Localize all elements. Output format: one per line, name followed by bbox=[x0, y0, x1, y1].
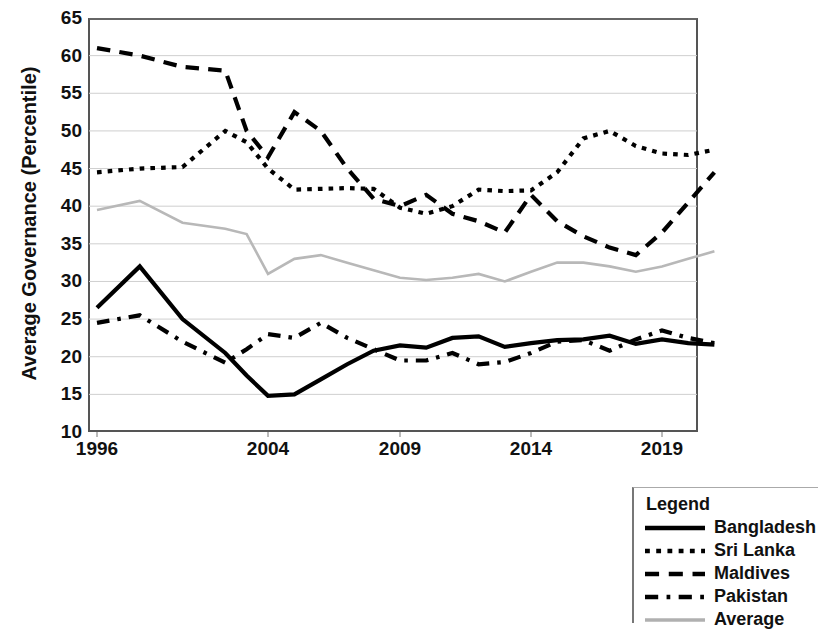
x-tick-label: 2009 bbox=[355, 439, 445, 458]
legend-swatch-maldives-icon bbox=[644, 567, 706, 581]
y-axis-tick-labels: 656055504540353025201510 bbox=[26, 0, 82, 623]
legend-item[interactable]: Sri Lanka bbox=[644, 540, 818, 563]
y-tick-label: 35 bbox=[30, 234, 82, 253]
legend-label: Bangladesh bbox=[714, 518, 816, 538]
x-tick-label: 1996 bbox=[52, 439, 142, 458]
y-tick-label: 20 bbox=[30, 347, 82, 366]
x-tick-label: 2014 bbox=[486, 439, 576, 458]
legend-title: Legend bbox=[646, 494, 818, 515]
y-tick-label: 60 bbox=[30, 46, 82, 65]
legend-item[interactable]: Pakistan bbox=[644, 586, 818, 609]
y-tick-label: 40 bbox=[30, 196, 82, 215]
legend-item[interactable]: Maldives bbox=[644, 563, 818, 586]
chart-legend: Legend BangladeshSri LankaMaldivesPakist… bbox=[632, 487, 818, 623]
legend-item[interactable]: Bangladesh bbox=[644, 517, 818, 540]
legend-label: Pakistan bbox=[714, 587, 788, 607]
y-tick-label: 15 bbox=[30, 384, 82, 403]
legend-item[interactable]: Average bbox=[644, 609, 818, 632]
legend-label: Maldives bbox=[714, 564, 790, 584]
x-tick-label: 2004 bbox=[223, 439, 313, 458]
y-tick-label: 25 bbox=[30, 309, 82, 328]
y-tick-label: 50 bbox=[30, 121, 82, 140]
legend-swatch-bangladesh-icon bbox=[644, 521, 706, 535]
y-tick-label: 30 bbox=[30, 271, 82, 290]
x-tick-label: 2019 bbox=[617, 439, 707, 458]
plot-area bbox=[88, 18, 698, 432]
y-tick-label: 65 bbox=[30, 8, 82, 27]
legend-label: Sri Lanka bbox=[714, 541, 795, 561]
legend-items: BangladeshSri LankaMaldivesPakistanAvera… bbox=[644, 517, 818, 632]
y-tick-label: 45 bbox=[30, 159, 82, 178]
y-tick-label: 55 bbox=[30, 83, 82, 102]
legend-label: Average bbox=[714, 610, 784, 630]
legend-swatch-sri-lanka-icon bbox=[644, 544, 706, 558]
legend-swatch-pakistan-icon bbox=[644, 590, 706, 604]
legend-swatch-average-icon bbox=[644, 613, 706, 627]
